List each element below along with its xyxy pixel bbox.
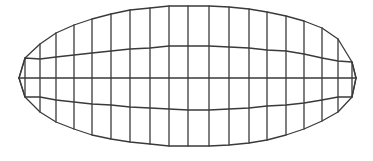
quad-mesh-diagram bbox=[0, 0, 373, 161]
mesh-transverse-lines bbox=[25, 6, 352, 146]
